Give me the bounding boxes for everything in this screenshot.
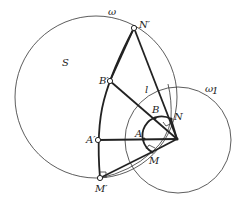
segment-N-prime-B-prime	[110, 28, 134, 81]
segment-A-prime-O	[98, 139, 177, 140]
label-S: S	[62, 57, 69, 68]
point-B	[153, 116, 156, 119]
arc-N-prime-M-prime	[99, 28, 134, 178]
point-N-prime	[131, 25, 136, 30]
point-M-prime	[97, 175, 102, 180]
label-B: B	[151, 104, 159, 115]
geometry-diagram: ω ω 1 S l N′ B′ A′ M′ A B N M	[0, 0, 242, 201]
point-M	[150, 150, 153, 153]
segment-M-prime-M	[100, 152, 152, 178]
label-M-prime: M′	[94, 183, 108, 194]
label-N-prime: N′	[138, 19, 151, 30]
point-N	[169, 117, 172, 120]
label-B-prime: B′	[98, 75, 109, 86]
circle-omega	[15, 16, 177, 178]
point-O	[175, 137, 178, 140]
label-M: M	[148, 155, 160, 166]
label-omega: ω	[108, 6, 116, 17]
label-omega1-sub: 1	[212, 85, 218, 96]
label-A-prime: A′	[85, 134, 96, 145]
label-A: A	[134, 128, 142, 139]
label-N: N	[173, 111, 184, 122]
label-l: l	[145, 84, 148, 95]
point-A-prime	[95, 137, 100, 142]
point-A	[142, 137, 145, 140]
segment-N-prime-O	[134, 28, 177, 139]
right-angle-N	[163, 122, 170, 126]
